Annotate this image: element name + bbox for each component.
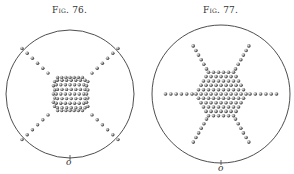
figure-76-bottom-mark: o <box>66 157 71 167</box>
figures-canvas <box>0 0 294 174</box>
figure-77-bottom-mark: o <box>218 163 223 173</box>
figure-77-dots <box>164 44 279 144</box>
figure-76-dots <box>20 47 119 142</box>
